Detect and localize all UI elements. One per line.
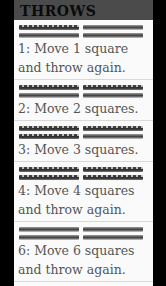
throw-sticks-icon [19,167,149,180]
plain-stick-icon [19,235,79,240]
marked-stick-icon [19,85,79,90]
throw-description: and throw again. [18,260,149,279]
throw-sticks-icon [19,126,149,139]
marked-stick-icon [83,126,143,131]
plain-stick-icon [83,134,143,139]
throw-sticks-icon [19,227,149,240]
throw-description: 4: Move 4 squares [18,181,149,200]
throw-description: and throw again. [18,58,149,77]
throw-row: 6: Move 6 squaresand throw again. [14,222,153,282]
throw-sticks-icon [19,85,149,98]
throw-row: 3: Move 3 squares. [14,121,153,162]
throw-row: 2: Move 2 squares. [14,80,153,121]
plain-stick-icon [83,93,143,98]
throws-list: 1: Move 1 squareand throw again.2: Move … [14,20,153,282]
throws-panel: THROWS 1: Move 1 squareand throw again.2… [14,0,153,286]
marked-stick-icon [19,167,79,172]
throw-description: 1: Move 1 square [18,39,149,58]
throw-sticks-icon [19,25,149,38]
throw-row: 1: Move 1 squareand throw again. [14,20,153,80]
marked-stick-icon [19,175,79,180]
throw-description: 2: Move 2 squares. [18,99,149,118]
throw-description: and throw again. [18,200,149,219]
plain-stick-icon [83,25,143,30]
throw-row: 4: Move 4 squaresand throw again. [14,162,153,222]
panel-title: THROWS [14,0,153,20]
throw-description: 6: Move 6 squares [18,241,149,260]
marked-stick-icon [19,126,79,131]
marked-stick-icon [83,175,143,180]
marked-stick-icon [19,25,79,30]
plain-stick-icon [19,227,79,232]
plain-stick-icon [19,93,79,98]
marked-stick-icon [83,167,143,172]
plain-stick-icon [83,235,143,240]
plain-stick-icon [83,227,143,232]
plain-stick-icon [83,33,143,38]
marked-stick-icon [83,85,143,90]
throw-description: 3: Move 3 squares. [18,140,149,159]
marked-stick-icon [19,134,79,139]
plain-stick-icon [19,33,79,38]
